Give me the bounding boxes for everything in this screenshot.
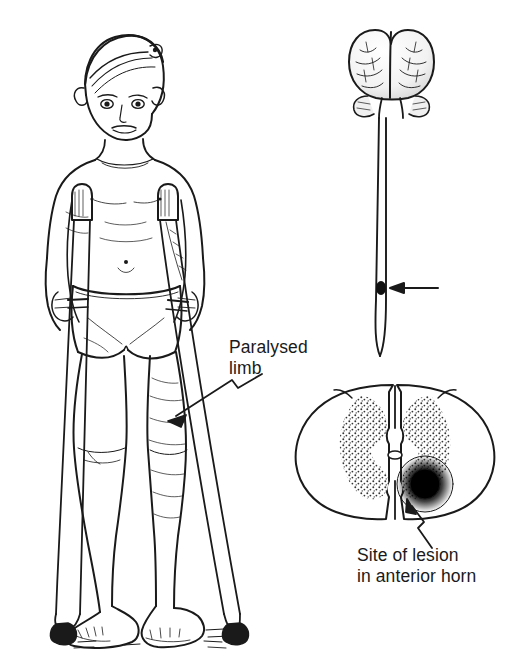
site-of-lesion-label: Site of lesion in anterior horn — [357, 545, 476, 587]
spinal-cord-cross-section — [296, 385, 495, 519]
paralysed-limb-leader — [168, 374, 262, 427]
illustration-canvas: Paralysed limb Site of lesion in anterio… — [0, 0, 518, 662]
brain-and-cord — [349, 30, 434, 356]
boy-figure — [46, 35, 230, 648]
lesion-level-arrow — [390, 283, 438, 293]
paralysed-limb-label: Paralysed limb — [229, 337, 308, 379]
